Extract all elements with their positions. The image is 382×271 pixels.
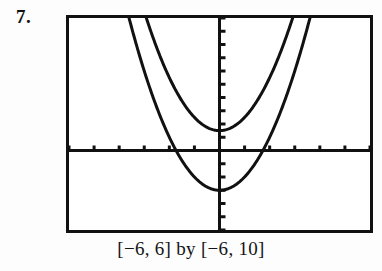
calculator-graph-screen	[66, 15, 373, 233]
figure-container: 7. [−6, 6] by [−6, 10]	[0, 0, 382, 271]
exercise-number-label: 7.	[16, 6, 31, 28]
viewing-window-caption: [−6, 6] by [−6, 10]	[0, 238, 382, 260]
graph-plot-area	[69, 18, 370, 230]
